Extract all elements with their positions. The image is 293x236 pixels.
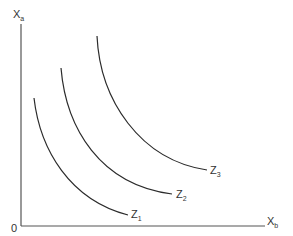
curve-z3-label: Z3 xyxy=(210,164,221,178)
y-axis-label: Xa xyxy=(13,8,24,22)
x-axis-label: Xb xyxy=(267,215,278,229)
curve-z1-label: Z1 xyxy=(131,208,142,222)
curve-z2-label: Z2 xyxy=(176,188,187,202)
curve-z2 xyxy=(61,68,172,194)
origin-label: 0 xyxy=(11,222,17,234)
curve-z1 xyxy=(34,98,128,215)
diagram-canvas: Xa Xb 0 Z1 Z2 Z3 xyxy=(0,0,293,236)
curve-z3 xyxy=(97,36,207,170)
